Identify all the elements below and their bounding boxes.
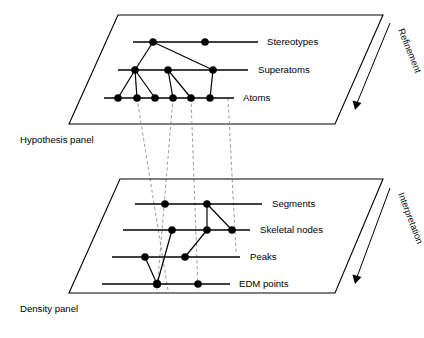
caption-hypothesis-panel: Hypothesis panel [20,134,94,145]
interpretation-arrow-head [352,275,361,284]
caption-density-panel: Density panel [20,303,78,314]
link-sa1-a1 [118,70,135,98]
link-sa2-a4 [168,70,173,98]
correspondence-line-2 [157,98,173,290]
node-superatom-2 [164,66,171,73]
node-superatom-1 [131,66,138,73]
label-segments: Segments [272,198,315,209]
label-interpretation: Interpretation [396,191,424,245]
density-panel-outline [69,179,383,293]
node-stereotype-2 [201,38,208,45]
label-stereotypes: Stereotypes [267,36,318,47]
node-skeletal-1 [168,226,175,233]
node-atom-6 [206,94,213,101]
link-st1-sa1 [135,42,153,70]
node-skeletal-3 [228,226,235,233]
link-sa3-a6 [210,70,213,98]
node-segment-1 [161,200,168,207]
node-atom-5 [187,94,194,101]
link-seg2-sk3 [207,204,232,230]
link-sa1-a3 [135,70,155,98]
correspondence-line-3 [191,98,198,290]
label-skeletal-nodes: Skeletal nodes [260,224,323,235]
refinement-arrow-head [353,101,362,110]
node-peak-2 [181,253,188,260]
node-stereotype-1 [149,38,156,45]
figure-root: Stereotypes Superatoms Atoms Hypothesis … [0,0,424,338]
link-pk1-edm1 [145,257,157,284]
node-atom-4 [169,94,176,101]
refinement-arrow [353,23,390,110]
node-superatom-3 [209,66,216,73]
node-peak-1 [141,253,148,260]
node-edm-2 [194,280,201,287]
layered-panels-diagram: Stereotypes Superatoms Atoms Hypothesis … [0,0,424,338]
node-segment-2 [203,200,210,207]
node-edm-1 [153,280,161,288]
node-atom-1 [114,94,121,101]
node-skeletal-2 [203,226,210,233]
interpretation-arrow [352,188,390,284]
correspondence-lines [137,98,236,290]
density-links [145,204,232,284]
link-sa2-a5 [168,70,191,98]
link-st1-sa3 [153,42,213,70]
label-refinement: Refinement [396,27,423,75]
label-superatoms: Superatoms [258,64,310,75]
node-atom-2 [133,94,140,101]
link-sa1-a2 [135,70,137,98]
label-edm-points: EDM points [239,278,289,289]
label-atoms: Atoms [243,92,270,103]
label-peaks: Peaks [250,251,277,262]
node-atom-3 [151,94,158,101]
